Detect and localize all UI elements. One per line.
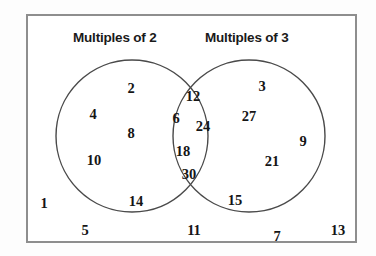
number-right-only: 27 — [242, 109, 257, 124]
number-intersection: 24 — [196, 119, 211, 134]
universal-set-frame — [26, 14, 357, 243]
number-right-only: 21 — [265, 154, 280, 169]
number-left-only: 10 — [87, 153, 102, 168]
number-intersection: 18 — [176, 144, 191, 159]
venn-diagram: Multiples of 2 Multiples of 3 2481014126… — [0, 0, 376, 256]
number-outside: 11 — [187, 223, 201, 238]
number-outside: 7 — [273, 229, 280, 244]
number-left-only: 14 — [129, 194, 144, 209]
number-intersection: 30 — [182, 167, 197, 182]
number-left-only: 4 — [89, 107, 96, 122]
number-outside: 5 — [81, 223, 88, 238]
set-label-multiples-of-3: Multiples of 3 — [205, 30, 288, 45]
number-left-only: 2 — [127, 81, 134, 96]
number-left-only: 8 — [127, 126, 134, 141]
number-intersection: 6 — [172, 111, 179, 126]
number-right-only: 15 — [228, 193, 243, 208]
number-right-only: 9 — [299, 134, 306, 149]
number-outside: 1 — [40, 196, 47, 211]
number-intersection: 12 — [186, 89, 201, 104]
set-label-multiples-of-2: Multiples of 2 — [73, 30, 156, 45]
number-right-only: 3 — [258, 79, 265, 94]
number-outside: 13 — [331, 223, 346, 238]
